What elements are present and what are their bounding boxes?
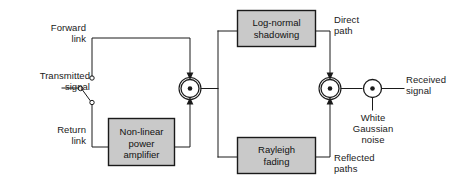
label-forward-link: Forward link (16, 22, 86, 44)
label-received-signal: Received signal (406, 74, 464, 96)
label-direct-path: Direct path (334, 14, 394, 36)
wire-direct-path (316, 31, 331, 73)
label-white-gaussian-noise: White Gaussian noise (343, 112, 403, 145)
label-reflected-paths: Reflected paths (334, 152, 400, 174)
wire-amplifier-to-mixer (175, 104, 190, 147)
node-noise-adder-dot (370, 86, 375, 91)
wire-return-link (92, 105, 108, 148)
block-nonlinear-power-amplifier[interactable] (109, 119, 175, 166)
block-rayleigh-fading[interactable] (238, 138, 316, 174)
diagram-canvas: Forward link Transmitted signal Return l… (0, 0, 464, 195)
node-uplink-mixer-dot (188, 86, 193, 91)
label-transmitted-signal: Transmitted signal (16, 70, 90, 92)
block-log-normal-shadowing[interactable] (238, 11, 316, 47)
label-return-link: Return link (16, 124, 86, 146)
wire-forward-link (92, 38, 190, 76)
node-path-combiner-dot (328, 86, 333, 91)
wire-reflected-paths (316, 104, 331, 157)
